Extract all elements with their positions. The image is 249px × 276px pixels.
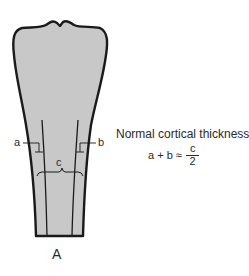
- label-c: c: [56, 157, 62, 168]
- bone-shape: [13, 21, 107, 236]
- label-b: b: [98, 137, 104, 148]
- caption-text: Normal cortical thickness =: [116, 127, 249, 141]
- panel-label: A: [52, 246, 61, 262]
- formula: a + b ≈ c 2: [148, 143, 199, 167]
- fraction-denominator: 2: [190, 156, 196, 168]
- label-a: a: [14, 137, 20, 148]
- fraction-numerator: c: [186, 143, 200, 156]
- formula-lhs: a + b ≈: [148, 149, 182, 161]
- fraction: c 2: [186, 143, 200, 167]
